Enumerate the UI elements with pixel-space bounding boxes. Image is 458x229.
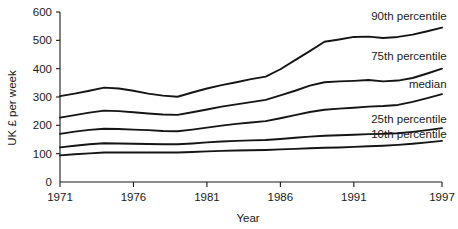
y-axis-title: UK £ per week (6, 70, 18, 146)
x-axis-title: Year (236, 212, 259, 224)
x-tick-label: 1971 (47, 191, 73, 203)
x-tick-label: 1976 (121, 191, 147, 203)
x-tick-label: 1981 (194, 191, 220, 203)
series-label-25th-percentile: 25th percentile (371, 113, 446, 125)
y-tick-label: 200 (33, 119, 52, 131)
series-line-90th-percentile (60, 28, 442, 97)
x-tick-label: 1997 (429, 191, 455, 203)
y-tick-labels: 0100200300400500600 (33, 6, 52, 188)
x-tick-label: 1991 (341, 191, 367, 203)
series-label-75th-percentile: 75th percentile (371, 50, 446, 62)
y-tick-label: 100 (33, 148, 52, 160)
x-tick-labels: 197119761981198619911997 (47, 191, 455, 203)
series-line-75th-percentile (60, 69, 442, 118)
x-tick-label: 1986 (268, 191, 294, 203)
series-label-median: median (409, 78, 447, 90)
y-tick-label: 300 (33, 91, 52, 103)
series-label-10th-percentile: 10th percentile (371, 128, 446, 140)
series-label-90th-percentile: 90th percentile (371, 10, 446, 22)
y-tick-label: 400 (33, 63, 52, 75)
y-tick-label: 500 (33, 34, 52, 46)
y-tick-label: 0 (46, 176, 52, 188)
chart-container: 0100200300400500600 19711976198119861991… (0, 0, 458, 229)
line-chart: 0100200300400500600 19711976198119861991… (0, 0, 458, 229)
y-tick-label: 600 (33, 6, 52, 18)
